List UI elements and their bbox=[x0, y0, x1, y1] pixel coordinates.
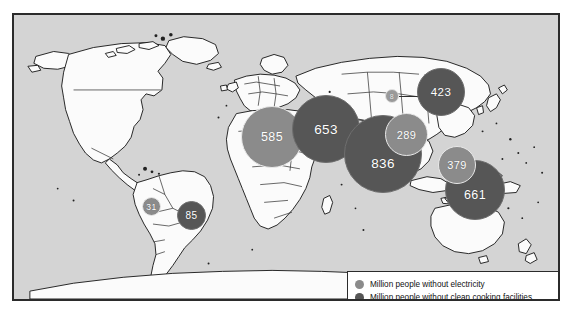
bubble-value: 379 bbox=[447, 159, 467, 171]
bubble-latam-cooking[interactable]: 85 bbox=[177, 201, 206, 230]
legend-label-electricity: Million people without electricity bbox=[370, 279, 485, 290]
bubble-value: 585 bbox=[261, 130, 283, 144]
bubble-central-asia-electricity[interactable]: 8 bbox=[385, 89, 399, 103]
bubble-sea-electricity[interactable]: 379 bbox=[438, 146, 476, 184]
bubble-value: 31 bbox=[146, 202, 156, 212]
bubble-india-electricity[interactable]: 289 bbox=[385, 113, 428, 156]
world-map-panel: 31 85 585 653 8 423 836 289 661 379 bbox=[12, 13, 560, 301]
legend-label-cooking: Million people without clean cooking fac… bbox=[370, 292, 532, 301]
legend-item-electricity[interactable]: Million people without electricity bbox=[355, 279, 554, 290]
bubble-china-cooking[interactable]: 423 bbox=[417, 68, 465, 116]
legend-swatch-light-circle-icon bbox=[355, 280, 364, 289]
bubble-value: 661 bbox=[464, 188, 486, 202]
legend-swatch-dark-circle-icon bbox=[355, 293, 364, 301]
bubble-value: 289 bbox=[397, 129, 417, 141]
legend: Million people without electricity Milli… bbox=[347, 271, 560, 301]
bubble-value: 85 bbox=[186, 210, 198, 221]
bubble-latam-electricity[interactable]: 31 bbox=[142, 197, 161, 216]
bubble-value: 423 bbox=[431, 86, 451, 98]
bubble-value: 8 bbox=[390, 93, 394, 100]
infographic-root: 31 85 585 653 8 423 836 289 661 379 bbox=[0, 0, 575, 317]
bubble-value: 836 bbox=[371, 156, 395, 171]
legend-item-cooking[interactable]: Million people without clean cooking fac… bbox=[355, 292, 554, 301]
bubble-value: 653 bbox=[314, 122, 338, 137]
